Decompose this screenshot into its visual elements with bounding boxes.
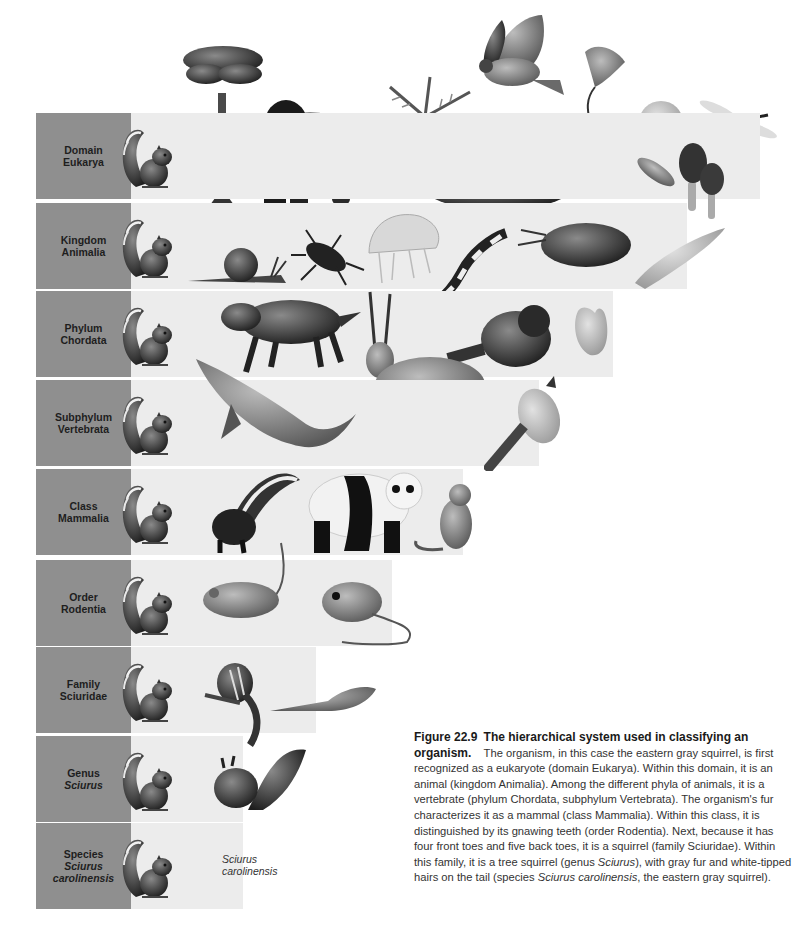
flatworm-illustration (630, 223, 730, 291)
taxon-name: Sciuridae (60, 690, 107, 702)
taxon-name-line1: Sciurus (64, 860, 103, 872)
rank-name: Kingdom (61, 234, 107, 246)
label-phylum: Phylum Chordata (36, 291, 131, 377)
chipmunk-illustration (200, 655, 270, 747)
eastern-gray-squirrel-icon (118, 125, 174, 191)
species-label-line1: Sciurus (222, 853, 277, 865)
hawk-illustration (472, 10, 567, 105)
eastern-gray-squirrel-icon (118, 748, 174, 814)
rank-name: Order (69, 591, 98, 603)
flying-squirrel-illustration (268, 679, 378, 719)
taxon-name: Sciurus (64, 779, 103, 791)
monkey-illustration (408, 479, 478, 557)
eastern-gray-squirrel-icon (118, 215, 174, 281)
label-genus: Genus Sciurus (36, 736, 131, 822)
caption-body-1: The organism, in this case the eastern g… (414, 747, 775, 868)
figure-number: Figure 22.9 (414, 730, 477, 744)
label-species: Species Sciurus carolinensis (36, 823, 131, 909)
eastern-gray-squirrel-icon (118, 835, 174, 901)
eastern-gray-squirrel-icon (118, 572, 174, 638)
taxon-name: Mammalia (58, 512, 109, 524)
caption-body-3: , the eastern gray squirrel). (637, 871, 771, 883)
species-label-line2: carolinensis (222, 865, 277, 877)
label-family: Family Sciuridae (36, 647, 131, 733)
rank-name: Species (64, 848, 104, 860)
band-species: Species Sciurus carolinensis Sciurus car… (36, 823, 243, 909)
label-domain: Domain Eukarya (36, 113, 131, 199)
rank-name: Domain (64, 144, 103, 156)
rank-name: Phylum (65, 322, 103, 334)
taxon-name: Chordata (60, 334, 106, 346)
mouse-illustration (196, 538, 296, 628)
kangaroo-rat-illustration (312, 574, 420, 646)
taxon-name: Vertebrata (58, 423, 109, 435)
crayfish-illustration (516, 215, 636, 280)
label-subphylum: Subphylum Vertebrata (36, 380, 131, 466)
rank-name: Class (69, 500, 97, 512)
rank-name: Subphylum (55, 411, 112, 423)
eastern-gray-squirrel-icon (118, 392, 174, 458)
taxon-name-line2: carolinensis (53, 872, 114, 884)
band-domain: Domain Eukarya (36, 113, 760, 199)
caption-species: Sciurus carolinensis (538, 871, 638, 883)
rank-name: Genus (67, 767, 100, 779)
figure-caption: Figure 22.9 The hierarchical system used… (414, 730, 794, 886)
taxon-name: Animalia (62, 246, 106, 258)
taxon-name: Eukarya (63, 156, 104, 168)
sea-squirt-illustration (570, 303, 612, 359)
band-order: Order Rodentia (36, 560, 392, 646)
species-label: Sciurus carolinensis (222, 853, 277, 877)
label-order: Order Rodentia (36, 560, 131, 646)
band-family: Family Sciuridae (36, 647, 316, 733)
caption-genus: Sciurus (598, 856, 635, 868)
rank-name: Family (67, 678, 100, 690)
beetle-illustration (286, 225, 366, 287)
paramecium-illustration (632, 151, 680, 193)
taxon-name: Rodentia (61, 603, 106, 615)
red-squirrel-illustration (208, 740, 308, 814)
label-class: Class Mammalia (36, 469, 131, 555)
band-genus: Genus Sciurus (36, 736, 243, 822)
snail-illustration (186, 245, 291, 285)
eastern-gray-squirrel-icon (118, 659, 174, 725)
eastern-gray-squirrel-icon (118, 481, 174, 547)
giant-panda-illustration (304, 461, 424, 556)
eastern-gray-squirrel-icon (118, 303, 174, 369)
humpback-whale-illustration (191, 354, 356, 464)
band-subphylum: Subphylum Vertebrata (36, 380, 539, 466)
warbler-illustration (484, 376, 574, 471)
band-kingdom: Kingdom Animalia (36, 203, 687, 289)
label-kingdom: Kingdom Animalia (36, 203, 131, 289)
